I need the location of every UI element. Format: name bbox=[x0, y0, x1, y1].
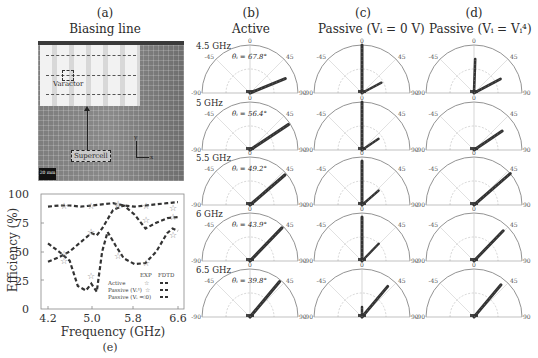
svg-text:0: 0 bbox=[472, 94, 476, 101]
svg-text:-45: -45 bbox=[204, 110, 214, 117]
svg-text:-45: -45 bbox=[204, 165, 214, 172]
polar-plot-c-4: 0-4545-9090 bbox=[302, 261, 422, 323]
svg-text:-45: -45 bbox=[428, 221, 438, 228]
svg-text:45: 45 bbox=[286, 110, 294, 117]
svg-text:-45: -45 bbox=[316, 53, 326, 60]
svg-text:-45: -45 bbox=[428, 53, 438, 60]
svg-text:0: 0 bbox=[248, 205, 252, 212]
svg-text:0: 0 bbox=[472, 37, 476, 44]
svg-text:0: 0 bbox=[360, 205, 364, 212]
svg-text:-45: -45 bbox=[428, 165, 438, 172]
svg-text:0: 0 bbox=[248, 94, 252, 101]
frequency-label: 4.5 GHz bbox=[196, 41, 231, 51]
steering-angle-label: θᵢ = 43.9° bbox=[232, 221, 267, 229]
svg-text:45: 45 bbox=[510, 277, 518, 284]
svg-text:90: 90 bbox=[523, 313, 531, 320]
svg-text:0: 0 bbox=[360, 37, 364, 44]
steering-angle-label: θᵢ = 49.2° bbox=[232, 165, 267, 173]
polar-plot-c-1: 0-4545-9090 bbox=[302, 94, 422, 156]
svg-text:45: 45 bbox=[286, 53, 294, 60]
polar-plot-d-0: 0-4545-9090 bbox=[414, 37, 534, 99]
svg-text:-45: -45 bbox=[204, 277, 214, 284]
svg-text:-45: -45 bbox=[316, 221, 326, 228]
polar-plot-d-3: 0-4545-9090 bbox=[414, 205, 534, 267]
svg-text:45: 45 bbox=[510, 221, 518, 228]
svg-text:45: 45 bbox=[286, 277, 294, 284]
svg-text:0: 0 bbox=[248, 261, 252, 268]
frequency-label: 6 GHz bbox=[196, 209, 223, 219]
svg-text:45: 45 bbox=[510, 53, 518, 60]
polar-plot-d-2: 0-4545-9090 bbox=[414, 149, 534, 211]
steering-angle-label: θᵢ = 67.8° bbox=[232, 53, 267, 61]
svg-text:0: 0 bbox=[360, 261, 364, 268]
radiation-pattern-grid: 0-4545-90900-4545-90900-4545-90904.5 GHz… bbox=[0, 0, 538, 358]
polar-plot-d-1: 0-4545-9090 bbox=[414, 94, 534, 156]
svg-text:45: 45 bbox=[398, 221, 406, 228]
svg-text:0: 0 bbox=[472, 261, 476, 268]
svg-text:45: 45 bbox=[286, 221, 294, 228]
svg-text:45: 45 bbox=[286, 165, 294, 172]
svg-text:0: 0 bbox=[472, 149, 476, 156]
frequency-label: 5 GHz bbox=[196, 98, 223, 108]
svg-text:-45: -45 bbox=[316, 277, 326, 284]
svg-text:-45: -45 bbox=[428, 110, 438, 117]
svg-text:0: 0 bbox=[248, 37, 252, 44]
svg-text:0: 0 bbox=[360, 149, 364, 156]
svg-text:45: 45 bbox=[510, 110, 518, 117]
svg-text:0: 0 bbox=[472, 205, 476, 212]
svg-text:-45: -45 bbox=[204, 53, 214, 60]
svg-text:45: 45 bbox=[398, 277, 406, 284]
steering-angle-label: θᵢ = 56.4° bbox=[232, 110, 267, 118]
polar-plot-d-4: 0-4545-9090 bbox=[414, 261, 534, 323]
polar-plot-c-3: 0-4545-9090 bbox=[302, 205, 422, 267]
svg-text:-45: -45 bbox=[204, 221, 214, 228]
svg-text:0: 0 bbox=[248, 149, 252, 156]
polar-plot-c-2: 0-4545-9090 bbox=[302, 149, 422, 211]
polar-plot-c-0: 0-4545-9090 bbox=[302, 37, 422, 99]
svg-text:-90: -90 bbox=[303, 313, 313, 320]
svg-text:-45: -45 bbox=[316, 110, 326, 117]
svg-text:45: 45 bbox=[510, 165, 518, 172]
svg-text:45: 45 bbox=[398, 53, 406, 60]
svg-text:-45: -45 bbox=[428, 277, 438, 284]
svg-text:45: 45 bbox=[398, 165, 406, 172]
frequency-label: 6.5 GHz bbox=[196, 265, 231, 275]
frequency-label: 5.5 GHz bbox=[196, 153, 231, 163]
svg-text:-90: -90 bbox=[191, 313, 201, 320]
svg-text:-90: -90 bbox=[415, 313, 425, 320]
svg-text:45: 45 bbox=[398, 110, 406, 117]
steering-angle-label: θᵢ = 39.8° bbox=[232, 277, 267, 285]
svg-text:0: 0 bbox=[360, 94, 364, 101]
svg-text:-45: -45 bbox=[316, 165, 326, 172]
